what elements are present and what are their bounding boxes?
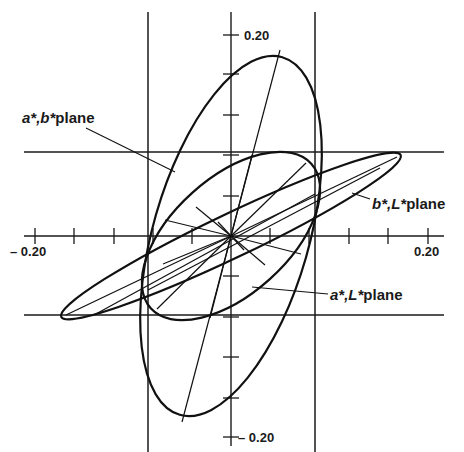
ab-leader-line: [86, 128, 175, 172]
y-min-label: – 0.20: [238, 430, 274, 445]
svg-text:b*,L*plane: b*,L*plane: [372, 195, 445, 212]
label-aL-plane: a*,L*plane: [252, 286, 403, 303]
label-ab-plane: a*,b*plane: [22, 109, 175, 172]
x-min-label: – 0.20: [10, 244, 46, 259]
bL-chord-lower: [148, 168, 380, 290]
aL-leader-line: [252, 287, 328, 294]
color-tolerance-ellipse-diagram: – 0.20 0.20 0.20 – 0.20: [0, 0, 464, 452]
bL-chord-upper: [94, 194, 315, 315]
svg-text:a*,L*plane: a*,L*plane: [330, 286, 403, 303]
axes: – 0.20 0.20 0.20 – 0.20: [10, 12, 444, 446]
bL-leader-line: [352, 193, 370, 199]
y-max-label: 0.20: [244, 28, 269, 43]
label-bL-plane: b*,L*plane: [352, 193, 445, 212]
bounding-box-lines: [24, 12, 444, 452]
svg-text:a*,b*plane: a*,b*plane: [22, 109, 95, 126]
x-max-label: 0.20: [414, 244, 439, 259]
